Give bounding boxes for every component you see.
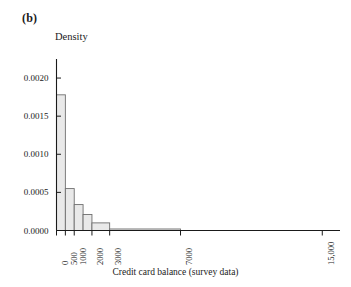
x-tick-label: 7000	[184, 248, 194, 265]
histogram-canvas	[0, 0, 351, 287]
x-tick-label: 3000	[113, 248, 123, 265]
plot-area: 0.00000.00050.00100.00150.00200500100020…	[0, 0, 351, 287]
x-tick-label: 2000	[95, 248, 105, 265]
x-tick-label: 15,000	[326, 241, 336, 264]
x-tick-label: 1000	[78, 248, 88, 265]
x-axis-title: Credit card balance (survey data)	[0, 267, 351, 277]
y-tick-label: 0.0010	[0, 149, 49, 159]
axes	[57, 59, 341, 231]
y-tick-label: 0.0020	[0, 73, 49, 83]
histogram-bars	[57, 95, 181, 231]
y-tick-label: 0.0000	[0, 226, 49, 236]
x-ticks	[57, 231, 323, 236]
histogram-bar	[92, 223, 110, 231]
histogram-bar	[74, 205, 83, 231]
y-tick-label: 0.0015	[0, 111, 49, 121]
figure-panel-b: (b) Density 0.00000.00050.00100.00150.00…	[0, 0, 351, 287]
histogram-bar	[83, 214, 92, 230]
y-tick-label: 0.0005	[0, 187, 49, 197]
histogram-bar	[57, 95, 66, 231]
histogram-bar	[65, 189, 74, 231]
